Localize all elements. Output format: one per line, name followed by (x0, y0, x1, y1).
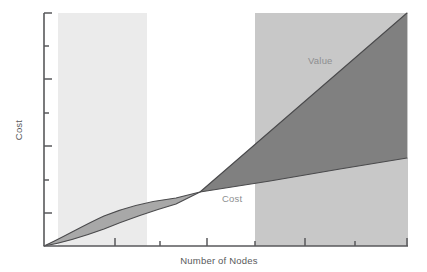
chart-container: Value Cost Cost Number of Nodes (0, 0, 427, 272)
cost-value-chart: Value Cost Cost Number of Nodes (0, 0, 427, 272)
cost-series-label: Cost (222, 193, 242, 204)
value-series-label: Value (308, 55, 333, 66)
x-axis-title: Number of Nodes (180, 255, 258, 266)
y-axis-title: Cost (13, 120, 24, 140)
